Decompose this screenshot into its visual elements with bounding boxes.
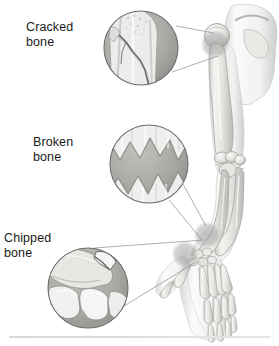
bone-fracture-figure: Cracked bone Broken bone Chipped bone	[0, 0, 279, 346]
callout-label-cracked-bone: Cracked bone	[26, 20, 73, 49]
callout-label-broken-bone: Broken bone	[33, 135, 73, 164]
highlight-marker-shoulder	[201, 30, 229, 58]
illustration-canvas	[0, 0, 279, 346]
callout-label-chipped-bone: Chipped bone	[4, 231, 51, 260]
footer-separator	[9, 336, 271, 338]
